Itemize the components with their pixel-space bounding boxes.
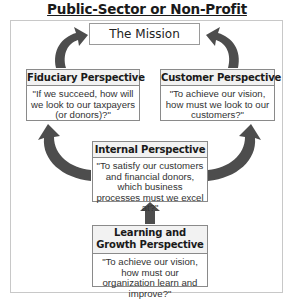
fiduciary-perspective-question: "If we succeed, how will we look to our … — [27, 86, 139, 124]
customer-perspective-box: Customer Perspective "To achieve our vis… — [160, 69, 275, 121]
fiduciary-perspective-box: Fiduciary Perspective "If we succeed, ho… — [26, 69, 140, 121]
customer-perspective-question: "To achieve our vision, how must we look… — [161, 86, 274, 124]
internal-perspective-question: "To satisfy our customers and financial … — [93, 158, 207, 217]
customer-perspective-header: Customer Perspective — [161, 70, 274, 86]
learning-growth-perspective-box: Learning and Growth Perspective "To achi… — [92, 225, 208, 287]
learning-growth-perspective-question: "To achieve our vision, how must our org… — [93, 254, 207, 302]
fiduciary-perspective-header: Fiduciary Perspective — [27, 70, 139, 86]
mission-box: The Mission — [89, 23, 200, 45]
internal-perspective-box: Internal Perspective "To satisfy our cus… — [92, 141, 208, 202]
learning-growth-perspective-header: Learning and Growth Perspective — [93, 226, 207, 254]
diagram-title: Public-Sector or Non-Profit — [0, 1, 294, 17]
internal-perspective-header: Internal Perspective — [93, 142, 207, 158]
